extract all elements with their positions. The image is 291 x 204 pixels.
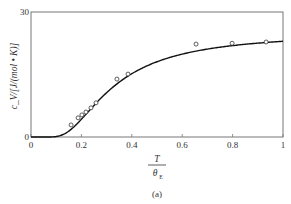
experimental-points bbox=[69, 40, 268, 127]
figure-caption: (a) bbox=[152, 189, 162, 199]
plot-frame bbox=[31, 12, 283, 137]
y-tick-label: 30 bbox=[20, 7, 30, 17]
x-tick-label: 0 bbox=[29, 140, 34, 150]
data-point bbox=[115, 77, 119, 81]
data-point bbox=[126, 72, 130, 76]
data-point bbox=[94, 101, 98, 105]
x-tick-label: 1 bbox=[281, 140, 286, 150]
data-point bbox=[264, 40, 268, 44]
data-point bbox=[230, 41, 234, 45]
x-tick-label: 0.8 bbox=[227, 140, 239, 150]
data-point bbox=[80, 113, 84, 117]
y-tick-label: 0 bbox=[25, 132, 30, 142]
x-axis-title-denominator: θ bbox=[153, 168, 158, 178]
x-tick-label: 0.4 bbox=[126, 140, 138, 150]
data-point bbox=[76, 116, 80, 120]
heat-capacity-chart: 00.20.40.60.81 030 c_V/[J/(mol • K)] T θ… bbox=[0, 0, 291, 204]
y-axis-ticks: 030 bbox=[20, 7, 30, 142]
data-point bbox=[89, 106, 93, 110]
x-axis-title-numerator: T bbox=[154, 154, 160, 164]
data-point bbox=[194, 42, 198, 46]
y-axis-title: c_V/[J/(mol • K)] bbox=[9, 42, 20, 109]
data-point bbox=[84, 110, 88, 114]
x-axis-title-subscript: E bbox=[159, 174, 163, 180]
x-tick-label: 0.2 bbox=[76, 140, 87, 150]
x-tick-label: 0.6 bbox=[177, 140, 189, 150]
x-axis-ticks: 00.20.40.60.81 bbox=[29, 134, 286, 150]
data-point bbox=[69, 123, 73, 127]
theory-curve bbox=[31, 41, 283, 137]
